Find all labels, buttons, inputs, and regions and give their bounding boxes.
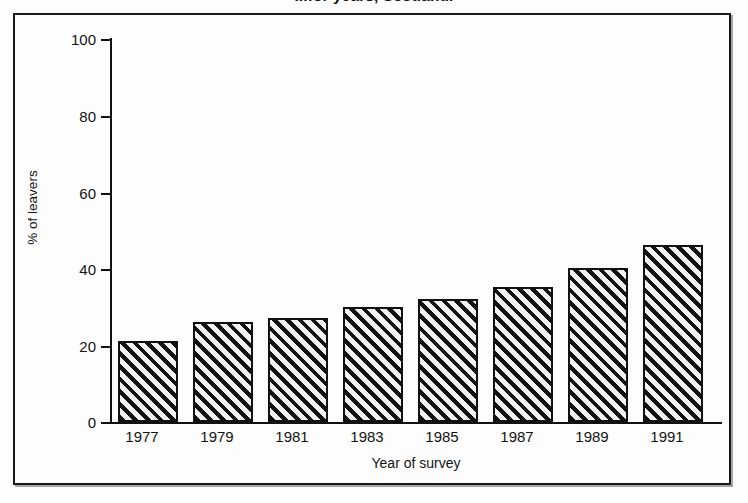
y-tick-label-40: 40: [42, 262, 96, 277]
bar-group-1989: [568, 40, 628, 422]
bar-1989: [568, 268, 628, 422]
y-tick-60: [101, 193, 111, 195]
y-axis-title: % of leavers: [25, 148, 40, 268]
bar-1983: [343, 307, 403, 422]
bar-group-1987: [493, 40, 553, 422]
chart-title: ...for years, Scotland.: [0, 0, 748, 5]
x-tick-label-1981: 1981: [252, 428, 332, 446]
bar-group-1985: [418, 40, 478, 422]
bar-group-1991: [643, 40, 703, 422]
y-tick-100: [101, 39, 111, 41]
chart-figure: ...for years, Scotland. 0 20 40 60 80 10…: [0, 0, 748, 503]
y-tick-80: [101, 116, 111, 118]
x-tick-label-1977: 1977: [102, 428, 182, 446]
bar-1991: [643, 245, 703, 422]
y-tick-20: [101, 346, 111, 348]
x-axis-title: Year of survey: [110, 455, 722, 471]
x-tick-label-1983: 1983: [327, 428, 407, 446]
bar-series: [112, 40, 722, 422]
y-tick-label-0: 0: [42, 415, 96, 430]
y-tick-40: [101, 269, 111, 271]
y-tick-label-60: 60: [42, 186, 96, 201]
bar-group-1979: [193, 40, 253, 422]
x-tick-label-1985: 1985: [402, 428, 482, 446]
x-axis-line: [110, 422, 722, 424]
bar-group-1981: [268, 40, 328, 422]
bar-1987: [493, 287, 553, 422]
y-tick-label-100: 100: [42, 32, 96, 47]
y-tick-label-80: 80: [42, 109, 96, 124]
y-tick-0: [101, 422, 111, 424]
x-tick-label-1979: 1979: [177, 428, 257, 446]
x-tick-label-1989: 1989: [552, 428, 632, 446]
bar-group-1983: [343, 40, 403, 422]
x-tick-label-1991: 1991: [627, 428, 707, 446]
bar-1979: [193, 322, 253, 422]
y-tick-label-20: 20: [42, 339, 96, 354]
bar-1977: [118, 341, 178, 422]
bar-1985: [418, 299, 478, 422]
bar-group-1977: [118, 40, 178, 422]
bar-1981: [268, 318, 328, 422]
x-tick-label-1987: 1987: [477, 428, 557, 446]
